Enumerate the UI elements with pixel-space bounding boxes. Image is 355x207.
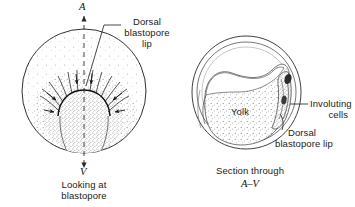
right-dorsal-lip-label-line2: blastopore lip	[275, 138, 333, 149]
left-dorsal-lip-label-line3: lip	[127, 38, 167, 49]
axis-arrow-top	[81, 16, 86, 22]
right-caption-line1: Section through	[198, 165, 302, 176]
left-caption-line1: Looking at	[42, 179, 126, 190]
yolk-label: Yolk	[219, 106, 261, 117]
animal-pole-marker: A	[79, 1, 85, 12]
vegetal-pole-marker: V	[80, 166, 86, 177]
right-dorsal-lip-label-line1: Dorsal	[288, 127, 316, 138]
left-caption-line2: blastopore	[42, 190, 126, 201]
involuting-cells-label-line2: cells	[296, 109, 348, 120]
involuting-cells-label-line1: Involuting	[310, 98, 352, 109]
right-caption-line2: A–V	[198, 178, 302, 189]
left-dorsal-lip-label-line1: Dorsal	[118, 16, 176, 27]
blastopore-figure: A V Dorsal blastopore lip Looking at bla…	[0, 0, 355, 207]
left-dorsal-lip-label-line2: blastopore	[113, 27, 181, 38]
